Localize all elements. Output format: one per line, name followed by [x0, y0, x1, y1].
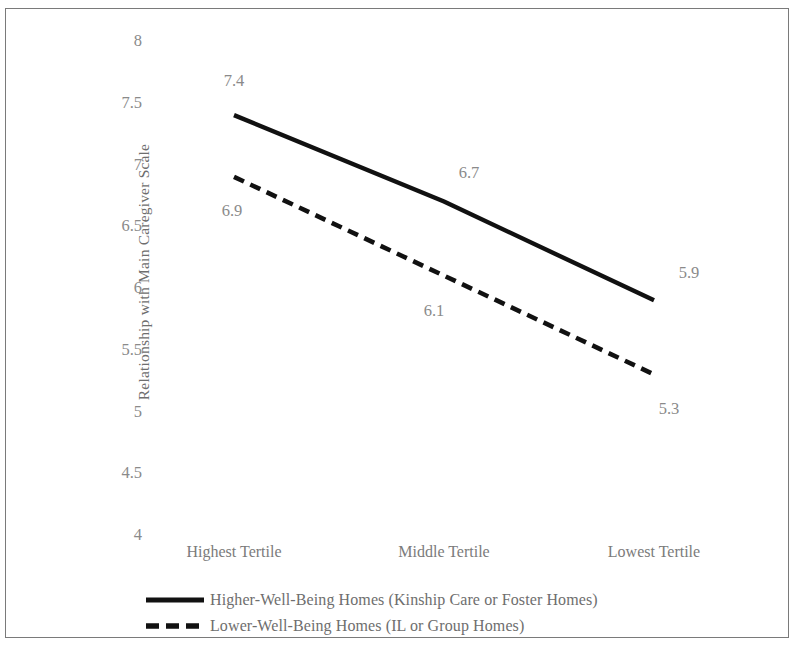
y-axis-tick-7-5: 7.5 [82, 95, 142, 112]
x-axis-tick-middle-tertile: Middle Tertile [334, 543, 554, 561]
y-axis-tick-4-5: 4.5 [82, 465, 142, 482]
x-axis-tick-lowest-tertile: Lowest Tertile [544, 543, 764, 561]
plot-area: Relationship with Main Caregiver Scale 7… [134, 41, 754, 535]
y-axis-tick-8: 8 [82, 33, 142, 50]
data-label-higher-highest: 7.4 [224, 73, 245, 90]
y-axis-tick-5: 5 [82, 403, 142, 420]
legend-item-higher-well-being: Higher-Well-Being Homes (Kinship Care or… [146, 587, 598, 613]
chart-legend: Higher-Well-Being Homes (Kinship Care or… [146, 587, 598, 639]
y-axis-tick-6-5: 6.5 [82, 218, 142, 235]
figure-border-frame: 8 7.5 7 6.5 6 5.5 5 4.5 4 Relationship w… [5, 8, 789, 638]
legend-swatch-solid-line-icon [146, 594, 204, 606]
legend-item-lower-well-being: Lower-Well-Being Homes (IL or Group Home… [146, 613, 598, 639]
legend-swatch-dashed-line-icon [146, 620, 204, 632]
chart-plot-svg [134, 41, 754, 535]
data-label-higher-lowest: 5.9 [679, 265, 700, 282]
series-higher-well-being-line [234, 115, 654, 300]
x-axis-tick-highest-tertile: Highest Tertile [124, 543, 344, 561]
figure-container: 8 7.5 7 6.5 6 5.5 5 4.5 4 Relationship w… [0, 0, 800, 653]
legend-label-higher-well-being: Higher-Well-Being Homes (Kinship Care or… [210, 591, 598, 609]
y-axis-tick-4: 4 [82, 527, 142, 544]
y-axis-tick-7: 7 [82, 156, 142, 173]
data-label-lower-highest: 6.9 [222, 203, 243, 220]
data-label-lower-lowest: 5.3 [659, 401, 680, 418]
data-label-lower-middle: 6.1 [424, 303, 445, 320]
data-label-higher-middle: 6.7 [459, 165, 480, 182]
y-axis-tick-5-5: 5.5 [82, 342, 142, 359]
series-lower-well-being-line [234, 177, 654, 375]
legend-label-lower-well-being: Lower-Well-Being Homes (IL or Group Home… [210, 617, 524, 635]
y-axis-tick-6: 6 [82, 280, 142, 297]
